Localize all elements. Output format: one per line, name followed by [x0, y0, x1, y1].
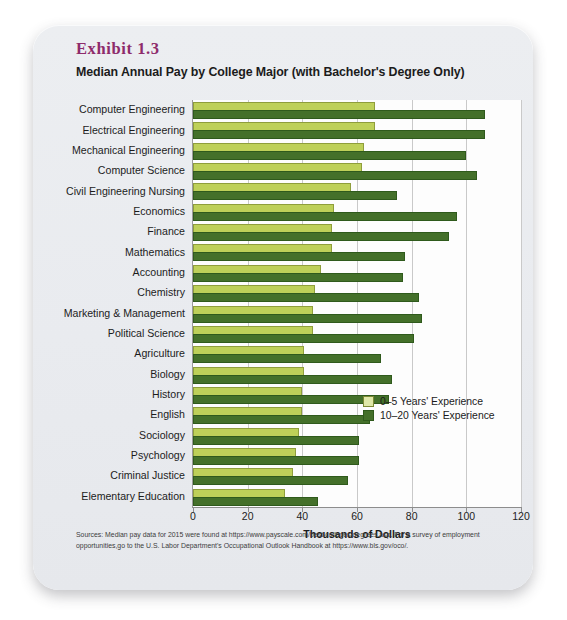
- bar-10-20-years: [193, 354, 381, 363]
- x-axis-tick-label: 80: [406, 510, 418, 522]
- category-label: English: [33, 408, 185, 420]
- bar-10-20-years: [193, 232, 449, 241]
- chart-legend: 0–5 Years' Experience 10–20 Years' Exper…: [363, 396, 495, 424]
- bar-row: [193, 120, 521, 140]
- bar-10-20-years: [193, 171, 477, 180]
- legend-item-10-20-years: 10–20 Years' Experience: [363, 410, 495, 421]
- exhibit-card-inner: Exhibit 1.3 Median Annual Pay by College…: [33, 25, 533, 590]
- bar-10-20-years: [193, 252, 405, 261]
- bar-10-20-years: [193, 476, 348, 485]
- bar-row: [193, 324, 521, 344]
- bar-row: [193, 242, 521, 262]
- bar-row: [193, 344, 521, 364]
- category-label: History: [33, 388, 185, 400]
- category-label: Mathematics: [33, 246, 185, 258]
- gridline: [521, 100, 522, 507]
- x-axis-tick-label: 100: [458, 510, 476, 522]
- legend-swatch-icon-light: [363, 396, 374, 407]
- category-label: Computer Engineering: [33, 103, 185, 115]
- bar-10-20-years: [193, 415, 370, 424]
- bar-10-20-years: [193, 436, 359, 445]
- category-label: Finance: [33, 225, 185, 237]
- bar-row: [193, 283, 521, 303]
- category-label: Chemistry: [33, 286, 185, 298]
- bar-row: [193, 446, 521, 466]
- bar-10-20-years: [193, 395, 389, 404]
- x-axis-tick-label: 0: [190, 510, 196, 522]
- bar-row: [193, 141, 521, 161]
- bar-10-20-years: [193, 334, 414, 343]
- category-label: Civil Engineering Nursing: [33, 185, 185, 197]
- category-label: Electrical Engineering: [33, 124, 185, 136]
- bar-row: [193, 263, 521, 283]
- bar-10-20-years: [193, 293, 419, 302]
- legend-label-10-20-years: 10–20 Years' Experience: [380, 410, 495, 421]
- bar-10-20-years: [193, 375, 392, 384]
- bar-row: [193, 202, 521, 222]
- bar-10-20-years: [193, 212, 457, 221]
- bar-10-20-years: [193, 191, 397, 200]
- category-label: Criminal Justice: [33, 469, 185, 481]
- exhibit-number: Exhibit 1.3: [76, 39, 160, 59]
- bar-row: [193, 100, 521, 120]
- category-axis: Computer EngineeringElectrical Engineeri…: [33, 100, 185, 507]
- category-label: Mechanical Engineering: [33, 144, 185, 156]
- bar-row: [193, 487, 521, 507]
- bar-row: [193, 161, 521, 181]
- x-axis-tick-label: 60: [351, 510, 363, 522]
- exhibit-figure: Exhibit 1.3 Median Annual Pay by College…: [0, 0, 567, 620]
- chart-plot-area: 020406080100120Thousands of Dollars: [192, 100, 521, 507]
- x-axis-tick-label: 40: [296, 510, 308, 522]
- category-label: Computer Science: [33, 164, 185, 176]
- category-label: Sociology: [33, 429, 185, 441]
- legend-label-0-5-years: 0–5 Years' Experience: [380, 396, 483, 407]
- category-label: Accounting: [33, 266, 185, 278]
- bar-10-20-years: [193, 130, 485, 139]
- category-label: Agriculture: [33, 347, 185, 359]
- category-label: Marketing & Management: [33, 307, 185, 319]
- bar-row: [193, 365, 521, 385]
- bar-row: [193, 304, 521, 324]
- bar-10-20-years: [193, 314, 422, 323]
- category-label: Political Science: [33, 327, 185, 339]
- bar-row: [193, 222, 521, 242]
- bar-row: [193, 181, 521, 201]
- bar-row: [193, 426, 521, 446]
- source-note: Sources: Median pay data for 2015 were f…: [76, 530, 496, 551]
- legend-swatch-icon-dark: [363, 410, 374, 421]
- x-axis-tick-label: 120: [512, 510, 530, 522]
- category-label: Biology: [33, 368, 185, 380]
- bar-10-20-years: [193, 497, 318, 506]
- bar-10-20-years: [193, 273, 403, 282]
- legend-item-0-5-years: 0–5 Years' Experience: [363, 396, 495, 407]
- category-label: Elementary Education: [33, 490, 185, 502]
- bar-10-20-years: [193, 151, 466, 160]
- bar-row: [193, 466, 521, 486]
- category-label: Economics: [33, 205, 185, 217]
- category-label: Psychology: [33, 449, 185, 461]
- bar-10-20-years: [193, 110, 485, 119]
- bar-10-20-years: [193, 456, 359, 465]
- exhibit-card: Exhibit 1.3 Median Annual Pay by College…: [33, 25, 533, 590]
- x-axis-tick-label: 20: [242, 510, 254, 522]
- chart-title: Median Annual Pay by College Major (with…: [76, 65, 465, 79]
